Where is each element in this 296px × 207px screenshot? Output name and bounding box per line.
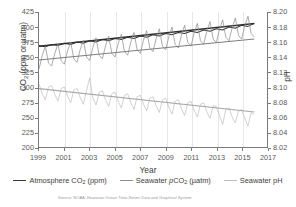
y-right-tickmark-8.20 (268, 12, 271, 13)
y-left-tick-label-325: 325 (6, 69, 34, 76)
y-right-tickmark-8.04 (268, 133, 271, 134)
y-right-tick-label-8.04: 8.04 (273, 129, 296, 136)
y-right-tickmark-8.12 (268, 72, 271, 73)
tickmark-x-1999 (38, 148, 39, 151)
y-right-tick-label-8.06: 8.06 (273, 114, 296, 121)
y-left-tick-label-200: 200 (6, 144, 34, 151)
x-axis-title: Year (0, 165, 296, 175)
tickmark-x-2001 (64, 148, 65, 151)
legend-label-seawater-ph: Seawater pH (240, 176, 283, 185)
y-left-tick-label-225: 225 (6, 129, 34, 136)
y-right-tickmark-8.16 (268, 42, 271, 43)
tickmark-x-2015 (242, 148, 243, 151)
tickmark-x-2013 (217, 148, 218, 151)
legend-label-seawater-pco2: Seawater pCO2 (µatm) (136, 176, 211, 185)
y-right-tick-label-8.08: 8.08 (273, 99, 296, 106)
x-tick-label-2009: 2009 (152, 154, 180, 161)
x-tick-label-2017: 2017 (254, 154, 282, 161)
y-left-tick-label-250: 250 (6, 114, 34, 121)
series-trend-atmosphere-co2 (39, 23, 254, 46)
x-tick-label-2007: 2007 (126, 154, 154, 161)
y-right-tick-label-8.16: 8.16 (273, 39, 296, 46)
chart-legend: Atmosphere CO2 (ppm) Seawater pCO2 (µatm… (0, 176, 296, 185)
x-tick-label-2005: 2005 (101, 154, 129, 161)
x-tick-label-2003: 2003 (75, 154, 103, 161)
x-tick-label-2013: 2013 (203, 154, 231, 161)
series-layer (39, 12, 267, 147)
x-tick-label-2001: 2001 (50, 154, 78, 161)
y-right-tickmark-8.06 (268, 118, 271, 119)
y-right-tickmark-8.18 (268, 27, 271, 28)
y-right-tick-label-8.14: 8.14 (273, 54, 296, 61)
x-tick-label-2011: 2011 (177, 154, 205, 161)
tickmark-x-2005 (115, 148, 116, 151)
source-note: Source: NOAA, Hawaiian Ocean Time-Series… (58, 195, 191, 200)
tickmark-x-2003 (89, 148, 90, 151)
plot-area (38, 12, 268, 148)
chart-title (0, 0, 296, 1)
y-right-tickmark-8.14 (268, 57, 271, 58)
y-right-tick-label-8.12: 8.12 (273, 69, 296, 76)
y-right-tickmark-8.10 (268, 88, 271, 89)
y-left-tick-label-300: 300 (6, 84, 34, 91)
legend-swatch-seawater-ph (224, 180, 237, 181)
y-right-tick-label-8.10: 8.10 (273, 84, 296, 91)
y-right-tick-label-8.02: 8.02 (273, 144, 296, 151)
x-tick-label-1999: 1999 (24, 154, 52, 161)
legend-swatch-seawater-pco2 (120, 180, 133, 181)
y-right-tickmark-8.08 (268, 103, 271, 104)
y-left-tick-label-425: 425 (6, 8, 34, 15)
tickmark-x-2011 (191, 148, 192, 151)
tickmark-x-2007 (140, 148, 141, 151)
legend-item-seawater-ph[interactable]: Seawater pH (224, 176, 283, 185)
y-left-tick-label-375: 375 (6, 39, 34, 46)
x-tick-label-2015: 2015 (228, 154, 256, 161)
y-left-tick-label-400: 400 (6, 24, 34, 31)
y-right-tick-label-8.18: 8.18 (273, 24, 296, 31)
tickmark-x-2009 (166, 148, 167, 151)
tickmark-x-2017 (268, 148, 269, 151)
y-left-tick-label-275: 275 (6, 99, 34, 106)
y-right-tick-label-8.20: 8.20 (273, 8, 296, 15)
y-left-tick-label-350: 350 (6, 54, 34, 61)
legend-swatch-atmosphere-co2 (13, 180, 26, 181)
legend-item-seawater-pco2[interactable]: Seawater pCO2 (µatm) (120, 176, 211, 185)
legend-item-atmosphere-co2[interactable]: Atmosphere CO2 (ppm) (13, 176, 106, 185)
chart-figure: CO2 (ppm or µatm) pH Year 20022525027530… (0, 0, 296, 207)
legend-label-atmosphere-co2: Atmosphere CO2 (ppm) (29, 176, 106, 185)
series-line-seawater-ph (39, 78, 254, 126)
